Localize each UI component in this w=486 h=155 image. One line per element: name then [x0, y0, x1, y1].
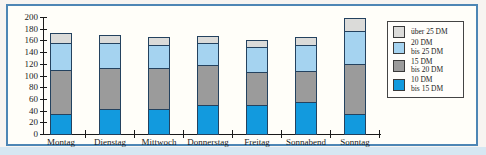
- y-axis-label: 60: [12, 94, 38, 104]
- y-axis-tick: [40, 87, 47, 88]
- legend-item: über 25 DM: [393, 26, 458, 38]
- y-axis-tick: [40, 111, 47, 112]
- bar-segment-10-dm-bis-15-dm: [197, 105, 219, 135]
- x-axis-label: Dienstag: [84, 137, 136, 148]
- bar-segment-10-dm-bis-15-dm: [99, 109, 121, 135]
- bar-segment-15-dm-bis-20-dm: [50, 70, 72, 115]
- x-axis-label: Mittwoch: [133, 137, 185, 148]
- y-axis-tick: [40, 29, 47, 30]
- legend-label: 10 DMbis 15 DM: [411, 76, 443, 93]
- legend-label: 20 DMbis 25 DM: [411, 39, 443, 56]
- bar-segment-20-dm-bis-25-dm: [246, 47, 268, 73]
- bar-segment-10-dm-bis-15-dm: [246, 105, 268, 135]
- bar-segment-über-25-dm: [148, 37, 170, 46]
- bar-segment-15-dm-bis-20-dm: [344, 64, 366, 115]
- bar-segment-10-dm-bis-15-dm: [50, 114, 72, 135]
- y-axis-label: 140: [12, 47, 38, 57]
- y-axis-tick: [40, 76, 47, 77]
- bar-segment-20-dm-bis-25-dm: [148, 45, 170, 69]
- y-axis-label: 200: [12, 12, 38, 22]
- bar-segment-15-dm-bis-20-dm: [295, 71, 317, 102]
- bar-segment-15-dm-bis-20-dm: [148, 68, 170, 110]
- y-axis-label: 160: [12, 35, 38, 45]
- x-axis-label: Freitag: [231, 137, 283, 148]
- x-axis-label: Sonntag: [329, 137, 381, 148]
- legend-item: 20 DMbis 25 DM: [393, 39, 458, 56]
- y-axis-label: 100: [12, 71, 38, 81]
- bar-segment-über-25-dm: [344, 18, 366, 32]
- legend-label-line: bis 25 DM: [411, 48, 443, 57]
- legend-swatch: [393, 60, 405, 72]
- x-axis-label: Sonnabend: [280, 137, 332, 148]
- bar-segment-10-dm-bis-15-dm: [148, 109, 170, 135]
- bar-segment-10-dm-bis-15-dm: [344, 114, 366, 135]
- chart-screenshot: 020406080100120140160180200MontagDiensta…: [0, 0, 486, 155]
- legend-swatch: [393, 26, 405, 38]
- y-axis-tick: [40, 99, 47, 100]
- bar-segment-15-dm-bis-20-dm: [246, 72, 268, 106]
- legend-label: 15 DMbis 20 DM: [411, 58, 443, 75]
- legend: über 25 DM20 DMbis 25 DM15 DMbis 20 DM10…: [387, 21, 464, 98]
- bar-segment-über-25-dm: [246, 40, 268, 49]
- y-axis-label: 80: [12, 82, 38, 92]
- bar-segment-10-dm-bis-15-dm: [295, 102, 317, 135]
- bar-segment-15-dm-bis-20-dm: [197, 65, 219, 106]
- y-axis-tick: [40, 52, 47, 53]
- bar-segment-20-dm-bis-25-dm: [344, 31, 366, 65]
- bar-segment-über-25-dm: [50, 33, 72, 45]
- y-axis-tick: [40, 64, 47, 65]
- y-axis-tick: [40, 17, 47, 18]
- bar-segment-über-25-dm: [295, 37, 317, 46]
- bar-segment-20-dm-bis-25-dm: [197, 43, 219, 66]
- bar-segment-15-dm-bis-20-dm: [99, 68, 121, 110]
- legend-swatch: [393, 79, 405, 91]
- legend-label-line: bis 20 DM: [411, 66, 443, 75]
- y-axis-tick: [40, 122, 47, 123]
- legend-label: über 25 DM: [411, 28, 448, 37]
- y-axis-label: 40: [12, 106, 38, 116]
- bar-segment-über-25-dm: [99, 35, 121, 45]
- x-axis-label: Donnerstag: [182, 137, 234, 148]
- y-axis-label: 180: [12, 24, 38, 34]
- y-axis-label: 20: [12, 117, 38, 127]
- legend-label-line: bis 15 DM: [411, 85, 443, 94]
- y-axis-label: 120: [12, 59, 38, 69]
- x-axis-label: Montag: [35, 137, 87, 148]
- legend-item: 15 DMbis 20 DM: [393, 58, 458, 75]
- bar-segment-über-25-dm: [197, 36, 219, 44]
- bar-segment-20-dm-bis-25-dm: [99, 43, 121, 69]
- legend-item: 10 DMbis 15 DM: [393, 76, 458, 93]
- bar-segment-20-dm-bis-25-dm: [295, 45, 317, 72]
- y-axis-tick: [40, 40, 47, 41]
- legend-swatch: [393, 42, 405, 54]
- legend-label-line: über 25 DM: [411, 28, 448, 37]
- bar-segment-20-dm-bis-25-dm: [50, 43, 72, 70]
